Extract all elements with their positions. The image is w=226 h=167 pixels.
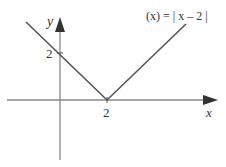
y-axis-label: y [45, 14, 54, 29]
x-tick-label: 2 [103, 105, 110, 120]
y-tick-label: 2 [46, 46, 53, 61]
function-line [26, 22, 186, 100]
x-axis-label: x [205, 105, 212, 120]
y-axis-arrow-icon [55, 17, 65, 32]
function-label: (x) = | x – 2 | [146, 9, 208, 23]
graph-canvas: y 2 2 x (x) = | x – 2 | [0, 0, 226, 167]
x-axis-arrow-icon [203, 95, 218, 105]
